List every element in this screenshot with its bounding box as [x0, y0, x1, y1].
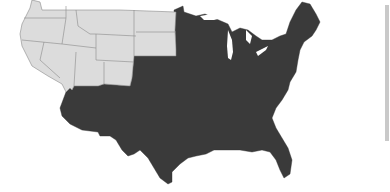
us-map: [0, 0, 390, 192]
side-scroll-bar: [385, 5, 389, 141]
